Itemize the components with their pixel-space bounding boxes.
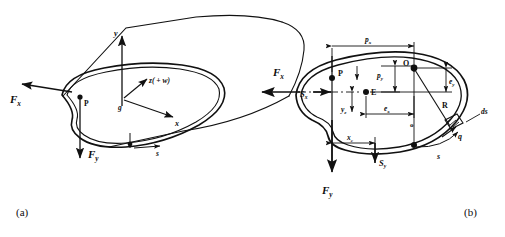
dim-ey-label: ey [449, 77, 455, 87]
point-p-label-b: P [338, 69, 343, 78]
force-fy-label-b: Fy [321, 184, 333, 199]
force-fx-label-a: Fx [9, 93, 21, 108]
section-b-inner-wall [301, 57, 461, 149]
axis-x-arrow-a [124, 100, 173, 117]
force-fy-label-a: Fy [87, 148, 99, 163]
dim-ex: ex [366, 96, 414, 118]
wall-element-ds: ds [445, 107, 488, 129]
dim-py-label: py [376, 71, 384, 81]
dim-ye-label: ye [340, 105, 347, 115]
point-p-marker-a [77, 94, 82, 99]
point-e-label: E [371, 88, 376, 97]
section-a-inner-wall [67, 67, 220, 143]
force-fx-label-b: Fx [272, 66, 284, 81]
axis-x-label-a: x [174, 119, 179, 128]
dim-py: py [376, 66, 412, 92]
point-e-marker [363, 89, 369, 95]
figure-container: y x z( + w) g P Fx Fy s (a) [0, 0, 505, 237]
dim-ye: ye [340, 92, 352, 115]
dim-ex-label: ex [384, 104, 390, 114]
axis-y-label-a: y [113, 29, 118, 38]
arc-coord-label-a: s [155, 149, 159, 158]
figure-svg: y x z( + w) g P Fx Fy s (a) [0, 0, 505, 237]
radius-line [415, 70, 450, 126]
ds-label: ds [481, 107, 488, 116]
radius-label: R [442, 101, 448, 110]
panel-a: y x z( + w) g P Fx Fy s (a) [9, 15, 304, 219]
axis-z-label-a: z( + w) [148, 76, 170, 85]
point-o-lower-label: o [410, 121, 414, 129]
dim-xc-label: xc [346, 133, 354, 143]
shear-flow-q-label: q [458, 132, 462, 141]
cylinder-body-outline [63, 15, 304, 147]
panel-b: px py P O E o ey [262, 35, 488, 219]
ds-leader-line [466, 114, 480, 122]
centroid-label-a: g [117, 103, 122, 112]
shear-sy-label: Sy [379, 158, 387, 169]
arc-coord-label-b: s [436, 152, 440, 161]
point-p-label-a: P [84, 99, 89, 108]
caption-a: (a) [16, 206, 29, 219]
axis-z-arrow-a [124, 79, 147, 98]
shear-sx-label: Sx [300, 89, 308, 100]
point-o-upper-label: O [403, 59, 409, 68]
dim-px-label: px [364, 35, 372, 45]
caption-b: (b) [464, 206, 477, 219]
